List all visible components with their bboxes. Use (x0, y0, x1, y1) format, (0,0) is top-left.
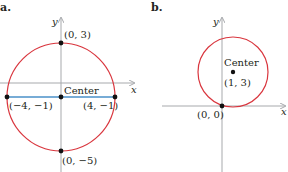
point-label-origin: (0, 0) (197, 109, 224, 120)
y-axis-label: y (212, 16, 219, 27)
point-center (59, 95, 64, 100)
point-center (231, 70, 235, 74)
center-label: Center (224, 57, 259, 68)
center-coords-label: (1, 3) (224, 77, 251, 88)
point-origin (220, 104, 225, 109)
point-left (5, 95, 10, 100)
y-axis-label: y (51, 16, 58, 27)
point-label-left: (−4, −1) (9, 100, 53, 111)
panel-b-label: b. (151, 1, 163, 14)
point-label-top: (0, 3) (64, 29, 91, 40)
point-label-right: (4, −1) (83, 100, 118, 111)
circles-diagram: a. x y (0, 3) Center (−4, −1) (4, −1) (0… (0, 0, 288, 172)
panel-a: a. x y (0, 3) Center (−4, −1) (4, −1) (0… (0, 1, 137, 172)
x-axis-label: x (281, 106, 287, 117)
point-top (59, 41, 64, 46)
panel-a-label: a. (0, 1, 11, 14)
x-axis-label: x (131, 84, 137, 95)
center-label: Center (64, 85, 99, 96)
point-bottom (59, 149, 64, 154)
point-right (113, 95, 118, 100)
point-label-bottom: (0, −5) (62, 155, 97, 166)
panel-b: b. x y Center (1, 3) (0, 0) (151, 1, 287, 172)
